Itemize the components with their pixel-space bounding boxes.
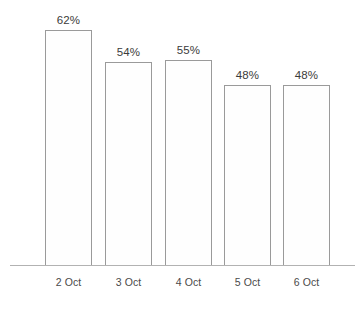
x-tick-label: 2 Oct: [45, 276, 92, 289]
x-axis-tick-labels: 2 Oct 3 Oct 4 Oct 5 Oct 6 Oct: [45, 276, 330, 296]
bar-value-label: 55%: [177, 44, 200, 57]
bar-rect[interactable]: [224, 85, 271, 266]
bar-rect[interactable]: [105, 62, 152, 266]
bar-value-label: 62%: [57, 14, 80, 27]
plot-area: 62% 54% 55% 48% 48%: [0, 0, 364, 266]
x-tick-label: 5 Oct: [224, 276, 271, 289]
bar-rect[interactable]: [45, 30, 92, 266]
bar-value-label: 48%: [236, 69, 259, 82]
x-tick-label: 4 Oct: [165, 276, 212, 289]
bar-chart: 62% 54% 55% 48% 48% 2 Oct 3: [0, 0, 364, 309]
bar-series: 62% 54% 55% 48% 48%: [45, 0, 330, 266]
bar-value-label: 48%: [295, 69, 318, 82]
x-tick-label: 6 Oct: [283, 276, 330, 289]
x-tick-label: 3 Oct: [105, 276, 152, 289]
bar-value-label: 54%: [117, 46, 140, 59]
bar-rect[interactable]: [283, 85, 330, 266]
x-axis-line: [10, 265, 355, 266]
bar-rect[interactable]: [165, 60, 212, 266]
